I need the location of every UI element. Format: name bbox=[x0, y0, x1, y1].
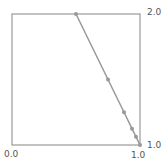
data-point bbox=[138, 143, 142, 147]
data-point bbox=[134, 135, 138, 139]
chart bbox=[0, 0, 168, 165]
plot-frame bbox=[12, 14, 140, 145]
x-left-label: 0.0 bbox=[4, 149, 18, 159]
data-point bbox=[106, 78, 110, 82]
data-point bbox=[130, 127, 134, 131]
y-top-label: 2.0 bbox=[147, 7, 161, 17]
y-bottom-label: 1.0 bbox=[147, 140, 161, 150]
data-point bbox=[74, 12, 78, 16]
data-point bbox=[122, 110, 126, 114]
x-right-label: 1.0 bbox=[131, 150, 145, 160]
